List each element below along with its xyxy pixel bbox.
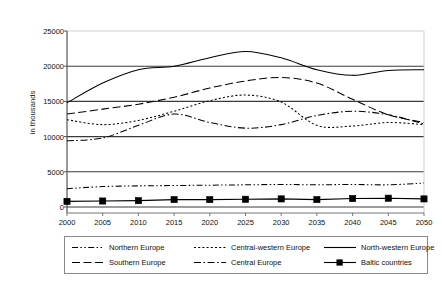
x-tick-label-2025: 2025	[237, 218, 254, 227]
legend-entry-northern-europe[interactable]: Northern Europe	[71, 243, 193, 252]
legend-key-dash-dot-icon	[193, 258, 227, 267]
legend-label: Central-western Europe	[231, 243, 310, 252]
x-tick-label-2015: 2015	[166, 218, 183, 227]
chart-legend: Northern EuropeCentral-western EuropeNor…	[64, 236, 428, 274]
series-marker-baltic-2015	[171, 197, 177, 203]
series-marker-baltic-2020	[207, 197, 213, 203]
legend-marker	[337, 259, 343, 265]
legend-key-solid-marker-icon	[323, 258, 357, 267]
legend-label: Southern Europe	[109, 258, 166, 267]
legend-label: Baltic countries	[361, 258, 412, 267]
x-tick-label-2040: 2040	[344, 218, 361, 227]
legend-entry-central-western-europe[interactable]: Central-western Europe	[193, 243, 323, 252]
legend-entry-north-western-europe[interactable]: North-western Europe	[323, 243, 433, 252]
series-marker-baltic-2010	[135, 198, 141, 204]
series-line-northern-europe	[67, 183, 424, 189]
series-marker-baltic-2025	[242, 196, 248, 202]
legend-label: Northern Europe	[109, 243, 164, 252]
legend-label: North-western Europe	[361, 243, 434, 252]
x-tick-label-2000: 2000	[59, 218, 76, 227]
legend-entry-central-europe[interactable]: Central Europe	[193, 258, 323, 267]
series-marker-baltic-2040	[350, 195, 356, 201]
x-tick-label-2020: 2020	[201, 218, 218, 227]
series-marker-baltic-2000	[64, 198, 70, 204]
series-line-southern-europe	[67, 77, 424, 122]
legend-key-dash-dot-dot-icon	[71, 243, 105, 252]
x-tick-label-2010: 2010	[130, 218, 147, 227]
legend-label: Central Europe	[231, 258, 281, 267]
series-marker-baltic-2030	[278, 196, 284, 202]
legend-entry-baltic-countries[interactable]: Baltic countries	[323, 258, 433, 267]
series-marker-baltic-2050	[421, 196, 427, 202]
series-marker-baltic-2045	[385, 195, 391, 201]
legend-entry-southern-europe[interactable]: Southern Europe	[71, 258, 193, 267]
line-chart: in thousands 0500010000150002000025000 2…	[0, 0, 442, 283]
x-tick-label-2005: 2005	[94, 218, 111, 227]
series-marker-baltic-2035	[314, 197, 320, 203]
x-tick-label-2030: 2030	[273, 218, 290, 227]
series-line-central-western-europe	[67, 95, 424, 127]
legend-key-dotted-icon	[193, 243, 227, 252]
legend-key-long-dash-icon	[71, 258, 105, 267]
x-tick-label-2050: 2050	[416, 218, 433, 227]
plot-area	[0, 0, 442, 236]
x-tick-label-2045: 2045	[380, 218, 397, 227]
series-marker-baltic-2005	[100, 198, 106, 204]
x-tick-label-2035: 2035	[309, 218, 326, 227]
legend-key-solid-icon	[323, 243, 357, 252]
